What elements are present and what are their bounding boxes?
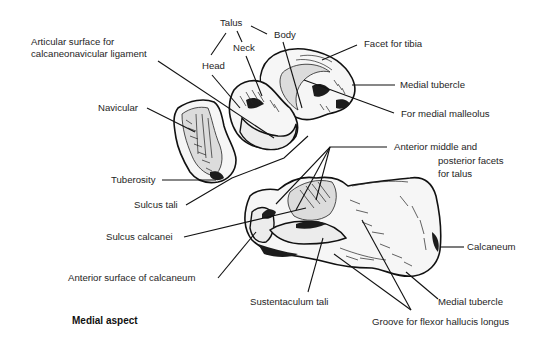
label-navicular: Navicular [98, 102, 138, 114]
label-articular-surface-line2: calcaneonavicular ligament [31, 48, 147, 60]
label-anterior-facets-line1: Anterior middle and [394, 141, 477, 153]
label-for-medial-malleolus: For medial malleolus [401, 108, 490, 120]
label-tuberosity: Tuberosity [111, 174, 155, 186]
label-body: Body [274, 29, 296, 41]
figure-caption: Medial aspect [72, 315, 138, 326]
label-facet-for-tibia: Facet for tibia [364, 38, 422, 50]
label-medial-tubercle-calcaneum: Medial tubercle [438, 296, 503, 308]
label-calcaneum: Calcaneum [467, 241, 516, 253]
label-medial-tubercle-talus: Medial tubercle [400, 79, 465, 91]
label-talus: Talus [220, 17, 242, 29]
label-sulcus-tali: Sulcus tali [134, 199, 178, 211]
label-anterior-facets-line2: posterior facets [438, 155, 504, 167]
label-groove-fhl: Groove for flexor hallucis longus [372, 316, 509, 328]
label-sulcus-calcanei: Sulcus calcanei [106, 231, 173, 243]
label-neck: Neck [233, 42, 255, 54]
label-anterior-facets-line3: for talus [438, 168, 472, 180]
label-head: Head [202, 60, 225, 72]
label-anterior-surface-calcaneum: Anterior surface of calcaneum [68, 272, 195, 284]
calcaneum-bone [245, 177, 441, 276]
talus-bone [229, 49, 354, 150]
label-sustentaculum-tali: Sustentaculum tali [250, 296, 328, 308]
navicular-bone [174, 100, 236, 183]
label-articular-surface-line1: Articular surface for [31, 36, 114, 48]
